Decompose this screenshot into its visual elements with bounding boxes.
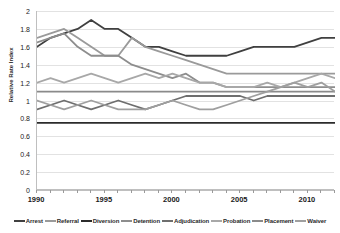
legend-label: Probation [223,218,250,224]
legend-item-arrest[interactable]: Arrest [14,218,43,224]
relative-rate-index-line-chart: Relative Rate Index 00.20.40.60.811.21.4… [0,0,340,233]
x-axis-tickmark [199,190,200,193]
x-axis-tick-label: 1995 [95,195,112,204]
x-axis-tickmark [63,190,64,193]
y-axis-tick-label: 1.2 [20,79,30,86]
legend-swatch-icon [14,220,25,223]
x-axis-tickmark [293,190,294,193]
legend-swatch-icon [81,220,92,223]
series-line-probation [37,74,335,87]
x-axis-tickmark [307,190,308,193]
x-axis-tickmark [334,190,335,193]
legend-label: Adjudication [174,218,209,224]
legend-item-referral[interactable]: Referral [45,218,79,224]
x-axis-tickmark [239,190,240,193]
y-axis-tick-label: 1.6 [20,43,30,50]
legend-swatch-icon [252,220,263,223]
y-axis-tick-label: 0 [26,187,30,194]
x-axis-tickmark [131,190,132,193]
x-axis-tickmark [226,190,227,193]
y-axis-tick-label: 0.4 [20,151,30,158]
legend-swatch-icon [211,220,222,223]
y-axis-tick-labels: 00.20.40.60.811.21.41.61.82 [0,0,32,200]
x-axis-tickmark [158,190,159,193]
legend-item-probation[interactable]: Probation [211,218,250,224]
x-axis-tickmark [77,190,78,193]
x-axis-tickmark [144,190,145,193]
legend-label: Detention [133,218,160,224]
plot-area [36,11,334,190]
legend-label: Waiver [307,218,326,224]
legend-label: Referral [57,218,79,224]
y-axis-tick-label: 2 [26,8,30,15]
y-axis-tick-label: 1.8 [20,25,30,32]
y-axis-tick-label: 1 [26,97,30,104]
x-axis-tickmark [36,190,37,193]
x-axis-tick-label: 2010 [299,195,316,204]
x-axis-tickmark [280,190,281,193]
x-axis-tickmark [253,190,254,193]
legend-label: Diversion [93,218,119,224]
legend-swatch-icon [295,220,306,223]
legend-item-adjudication[interactable]: Adjudication [162,218,209,224]
legend-label: Arrest [26,218,43,224]
x-axis-tick-label: 2000 [163,195,180,204]
x-axis-tickmarks [36,190,334,194]
x-axis-tickmark [104,190,105,193]
x-axis-tickmark [50,190,51,193]
y-axis-tick-label: 0.6 [20,133,30,140]
y-axis-tick-label: 0.8 [20,115,30,122]
x-axis-tickmark [90,190,91,193]
legend-item-detention[interactable]: Detention [121,218,160,224]
y-axis-tick-label: 1.4 [20,61,30,68]
x-axis-tickmark [320,190,321,193]
legend-item-placement[interactable]: Placement [252,218,293,224]
legend-item-waiver[interactable]: Waiver [295,218,326,224]
x-axis-tick-label: 1990 [28,195,45,204]
x-axis-tickmark [185,190,186,193]
x-axis-tick-labels: 19901995200020052010 [0,195,340,207]
x-axis-tickmark [212,190,213,193]
legend-swatch-icon [45,220,56,223]
legend-swatch-icon [121,220,132,223]
legend-item-diversion[interactable]: Diversion [81,218,119,224]
chart-legend: ArrestReferralDiversionDetentionAdjudica… [0,214,340,228]
x-axis-tick-label: 2005 [231,195,248,204]
x-axis-tickmark [117,190,118,193]
series-line-referral [37,29,335,74]
y-axis-tick-label: 0.2 [20,169,30,176]
legend-label: Placement [264,218,293,224]
x-axis-tickmark [171,190,172,193]
x-axis-tickmark [266,190,267,193]
series-lines [37,11,335,190]
legend-swatch-icon [162,220,173,223]
